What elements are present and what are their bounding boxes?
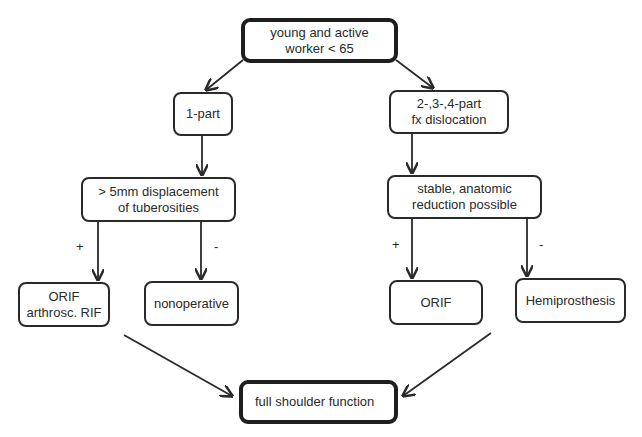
arrow-orif-arthrosc-to-outcome	[124, 335, 232, 396]
node-stable-anatomic-reduction: stable, anatomic reduction possible	[387, 175, 542, 219]
node-label: ORIF	[420, 295, 451, 311]
node-nonoperative: nonoperative	[144, 281, 239, 326]
node-full-shoulder-function: full shoulder function	[239, 380, 398, 424]
node-orif: ORIF	[389, 280, 483, 325]
node-multi-part-fx-dislocation: 2-,3-,4-part fx dislocation	[389, 90, 509, 134]
node-orif-arthrosc-rif: ORIF arthrosc. RIF	[18, 282, 110, 327]
node-label: 1-part	[186, 106, 220, 122]
node-label: young and active worker < 65	[270, 25, 368, 57]
node-label: > 5mm displacement of tuberosities	[98, 184, 218, 216]
node-displacement-of-tuberosities: > 5mm displacement of tuberosities	[81, 177, 236, 222]
edge-label-displacement-no: -	[214, 240, 218, 254]
node-label: Hemiprosthesis	[526, 293, 616, 309]
node-label: full shoulder function	[255, 394, 374, 410]
node-young-active-worker: young and active worker < 65	[241, 18, 398, 63]
arrow-start-to-one-part	[206, 60, 243, 90]
node-one-part: 1-part	[173, 92, 233, 136]
treatment-flowchart: young and active worker < 65 1-part 2-,3…	[0, 0, 642, 437]
edge-label-displacement-yes: +	[76, 240, 84, 254]
node-hemiprosthesis: Hemiprosthesis	[515, 278, 626, 323]
arrow-hemiprosthesis-to-outcome	[403, 333, 491, 396]
node-label: ORIF arthrosc. RIF	[26, 289, 101, 321]
node-label: 2-,3-,4-part fx dislocation	[411, 96, 486, 128]
arrow-start-to-multi-part	[396, 60, 433, 88]
node-label: stable, anatomic reduction possible	[412, 181, 517, 213]
edge-label-reduction-no: -	[539, 238, 543, 252]
edge-label-reduction-yes: +	[392, 238, 400, 252]
node-label: nonoperative	[154, 296, 229, 312]
